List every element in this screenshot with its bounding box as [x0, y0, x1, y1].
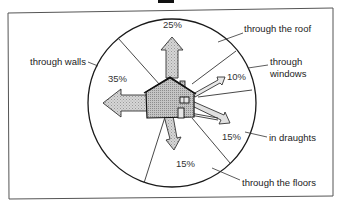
label-windows-line2: windows	[269, 68, 307, 79]
heat-loss-diagram: 25% 10% 15% 15% 35% through the roof thr…	[0, 0, 338, 203]
label-draughts: in draughts	[269, 132, 316, 143]
pct-windows: 10%	[227, 71, 247, 82]
roof-arrow	[161, 37, 183, 78]
label-floors: through the floors	[242, 177, 316, 188]
draughts-arrow	[190, 101, 230, 124]
pct-floors: 15%	[176, 158, 196, 169]
pct-walls: 35%	[108, 73, 128, 84]
label-walls: through walls	[30, 56, 86, 67]
label-windows-line1: through	[270, 56, 302, 67]
pct-roof: 25%	[163, 19, 183, 30]
house-icon	[144, 77, 196, 118]
title-fragment	[158, 0, 174, 3]
label-roof: through the roof	[244, 23, 311, 34]
floors-arrow	[164, 116, 181, 150]
pct-draughts: 15%	[222, 131, 242, 142]
